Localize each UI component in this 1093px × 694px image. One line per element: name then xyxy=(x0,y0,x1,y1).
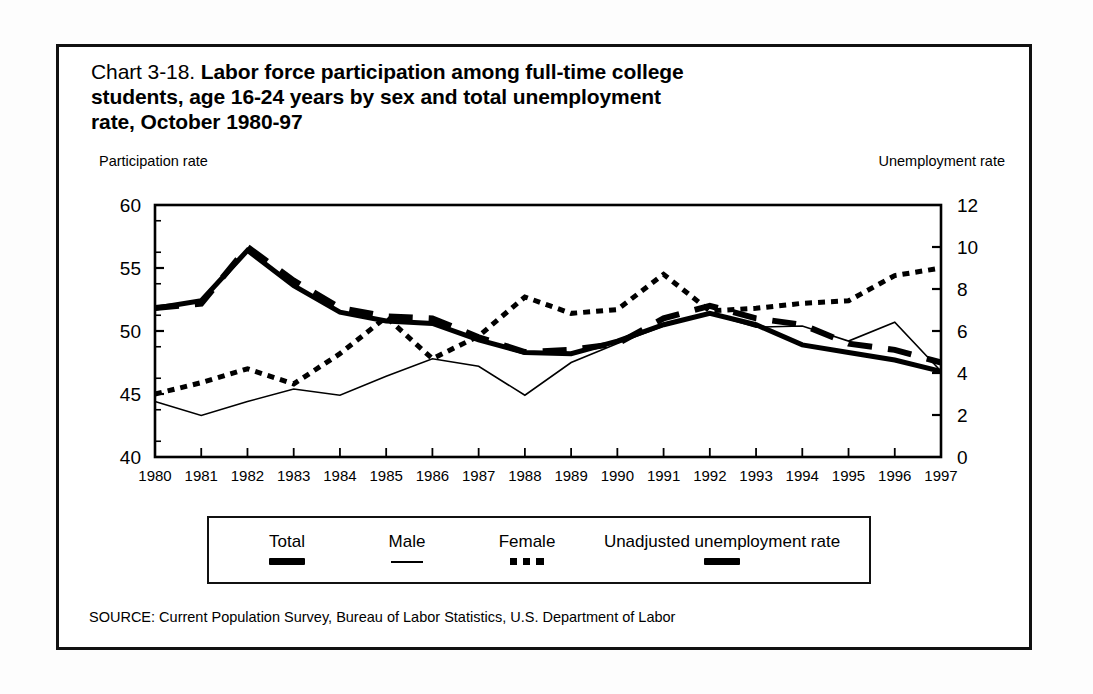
x-axis-tick-label: 1996 xyxy=(878,467,911,484)
plot-area: 4045505560 024681012 1980198119821983198… xyxy=(95,187,1001,507)
y-axis-right-tick-label: 0 xyxy=(957,447,968,468)
right-axis-caption: Unemployment rate xyxy=(878,153,1005,169)
legend-swatch-male-icon xyxy=(391,561,423,563)
y-axis-right-tick-label: 12 xyxy=(957,195,978,216)
x-axis-tick-label: 1983 xyxy=(277,467,310,484)
legend-label-total: Total xyxy=(227,532,347,552)
data-series-group xyxy=(155,247,941,415)
title-text-1: Labor force participation among full-tim… xyxy=(201,60,684,83)
line-chart-svg: 4045505560 024681012 1980198119821983198… xyxy=(95,187,1001,507)
x-axis-tick-label: 1989 xyxy=(554,467,587,484)
title-line-2: students, age 16-24 years by sex and tot… xyxy=(91,84,791,109)
y-axis-right-tick-label: 10 xyxy=(957,237,978,258)
chart-number: Chart 3-18. xyxy=(91,60,195,83)
y-axis-left-tick-label: 55 xyxy=(120,258,141,279)
y-axis-left-tick-label: 60 xyxy=(120,195,141,216)
y-axis-left-tick-label: 50 xyxy=(120,321,141,342)
legend-swatch-female-icon xyxy=(510,558,544,565)
x-axis-tick-label: 1980 xyxy=(138,467,171,484)
x-axis-tick-label: 1982 xyxy=(231,467,264,484)
x-axis-tick-label: 1993 xyxy=(739,467,772,484)
y-axis-right-tick-label: 8 xyxy=(957,279,968,300)
legend-item-female[interactable]: Female xyxy=(467,532,587,565)
left-axis-caption: Participation rate xyxy=(99,153,208,169)
y-axis-right-tick-label: 6 xyxy=(957,321,968,342)
title-line-3: rate, October 1980-97 xyxy=(91,109,791,134)
chart-page: Chart 3-18. Labor force participation am… xyxy=(0,0,1093,694)
x-axis-tick-label: 1984 xyxy=(323,467,356,484)
legend-swatch-unadjusted-icon xyxy=(704,558,740,565)
series-line-male xyxy=(155,313,941,415)
legend-label-female: Female xyxy=(467,532,587,552)
legend-item-total[interactable]: Total xyxy=(227,532,347,565)
x-axis-tick-label: 1994 xyxy=(786,467,819,484)
x-axis-tick-label: 1981 xyxy=(185,467,218,484)
x-axis-tick-label: 1991 xyxy=(647,467,680,484)
x-axis-tick-label: 1997 xyxy=(924,467,957,484)
x-axis-tick-label: 1987 xyxy=(462,467,495,484)
legend-item-male[interactable]: Male xyxy=(347,532,467,563)
title-line-1: Chart 3-18. Labor force participation am… xyxy=(91,59,791,84)
x-axis-tick-labels: 1980198119821983198419851986198719881989… xyxy=(138,467,957,484)
x-axis-tick-label: 1992 xyxy=(693,467,726,484)
y-axis-right-tick-label: 2 xyxy=(957,405,968,426)
legend-item-unadjusted-unemployment-rate[interactable]: Unadjusted unemployment rate xyxy=(577,532,867,565)
x-axis-tick-label: 1985 xyxy=(369,467,402,484)
x-axis-tick-label: 1990 xyxy=(601,467,634,484)
x-axis-tick-label: 1995 xyxy=(832,467,865,484)
legend: Total Male Female Unadjusted unemploymen… xyxy=(207,516,871,584)
legend-label-unadjusted: Unadjusted unemployment rate xyxy=(577,532,867,552)
figure-frame: Chart 3-18. Labor force participation am… xyxy=(56,44,1032,650)
legend-swatch-total-icon xyxy=(269,558,305,565)
y-axis-left-tick-labels: 4045505560 xyxy=(120,195,141,468)
source-note: SOURCE: Current Population Survey, Burea… xyxy=(89,609,675,625)
page-title: Chart 3-18. Labor force participation am… xyxy=(91,59,791,134)
y-axis-left-tick-label: 45 xyxy=(120,384,141,405)
axis-ticks xyxy=(155,221,941,457)
x-axis-tick-label: 1988 xyxy=(508,467,541,484)
y-axis-right-tick-labels: 024681012 xyxy=(957,195,978,468)
y-axis-right-tick-label: 4 xyxy=(957,363,968,384)
y-axis-left-tick-label: 40 xyxy=(120,447,141,468)
x-axis-tick-label: 1986 xyxy=(416,467,449,484)
legend-label-male: Male xyxy=(347,532,467,552)
